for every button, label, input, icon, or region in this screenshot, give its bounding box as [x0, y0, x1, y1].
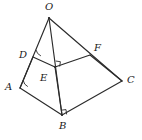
vertex-label-E: E — [40, 73, 47, 83]
geometry-canvas — [0, 0, 142, 140]
vertex-label-O: O — [45, 2, 53, 12]
edge-B-C — [62, 81, 122, 115]
vertex-label-A: A — [5, 82, 12, 92]
geometry-figure: O D F E A C B — [0, 0, 142, 140]
vertex-dot-B — [61, 114, 63, 116]
edge-A-B — [20, 88, 62, 115]
vertex-dot-E — [54, 66, 56, 68]
vertex-label-F: F — [94, 43, 101, 53]
angle-arc-at-D — [36, 50, 41, 56]
vertex-label-D: D — [19, 50, 27, 60]
edge-D-E — [33, 57, 55, 67]
edge-F-C — [90, 55, 122, 81]
edge-D-A — [20, 57, 33, 88]
edge-E-B — [55, 67, 62, 115]
vertex-label-C: C — [127, 75, 135, 85]
vertex-label-B: B — [59, 121, 66, 131]
edge-group — [20, 18, 122, 115]
vertex-dot-O — [48, 17, 50, 19]
angle-arc-at-A — [23, 80, 28, 86]
